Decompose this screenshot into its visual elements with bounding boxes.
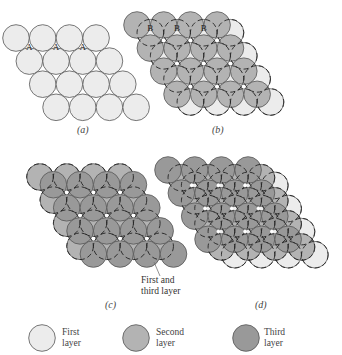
site-c-hole [175,62,179,66]
first-and-third-layer-annotation: First and third layer [141,275,180,297]
first-layer-sphere [123,94,150,121]
legend-third-layer-swatch [233,325,260,352]
site-c-hole [202,62,206,66]
annotation-leader-line [154,262,160,276]
first-layer-sphere [110,71,137,98]
site-a-marker: A [80,42,87,52]
first-layer-sphere [83,71,110,98]
legend-second-line2: layer [156,338,184,349]
first-layer-sphere [43,48,70,75]
site-c-hole [215,39,219,43]
annotation-line-1: First and [141,275,180,286]
aba-hole [145,237,149,241]
legend-first-layer-swatch [29,325,56,352]
legend-first-line2: layer [62,338,81,349]
aba-hole [118,191,122,195]
legend-first-layer-label: First layer [62,327,81,349]
first-layer-sphere [69,94,96,121]
panel-c-label: (c) [105,299,116,310]
site-b-marker: B [201,23,207,33]
aba-hole [92,191,96,195]
panel-b-two-layers: BBB [124,12,284,116]
abc-hole [190,184,194,188]
legend-third-layer-label: Third layer [264,327,285,349]
site-a-marker: A [26,42,33,52]
abc-hole [243,184,247,188]
site-c-hole [162,39,166,43]
first-layer-sphere [83,25,110,52]
abc-hole [217,230,221,234]
legend-third-line2: layer [264,338,285,349]
aba-hole [65,191,69,195]
panel-b-label: (b) [212,124,224,135]
abc-hole [243,230,247,234]
legend-first-line1: First [62,327,81,338]
third-layer-sphere [155,157,182,184]
abc-hole [217,184,221,188]
site-b-marker: B [174,23,180,33]
panel-a-first-layer: AAA [3,25,150,121]
first-layer-sphere [69,48,96,75]
second-layer-sphere [124,12,151,39]
site-c-hole [215,85,219,89]
aba-hole [78,214,82,218]
site-b-marker: B [147,23,153,33]
abc-hole [270,230,274,234]
aba-hole [105,214,109,218]
legend-second-layer-label: Second layer [156,327,184,349]
first-layer-sphere [29,71,56,98]
aba-hole [92,237,96,241]
legend-second-layer-swatch [123,325,150,352]
abc-hole [230,207,234,211]
site-a-marker: A [53,42,60,52]
second-layer-sphere [137,35,164,62]
legend-second-line1: Second [156,327,184,338]
first-layer-sphere [96,94,123,121]
first-layer-sphere [56,71,83,98]
close-packing-diagram: AAA BBB [0,0,342,355]
first-layer-sphere [16,48,43,75]
second-layer-sphere [150,58,177,85]
site-c-hole [189,39,193,43]
abc-hole [203,207,207,211]
aba-hole [118,237,122,241]
site-c-hole [189,85,193,89]
site-c-hole [242,85,246,89]
aba-hole [132,214,136,218]
panel-a-label: (a) [77,124,89,135]
site-c-hole [229,62,233,66]
annotation-line-2: third layer [141,286,180,297]
first-layer-sphere [43,94,70,121]
panel-d-label: (d) [255,299,267,310]
second-layer-sphere [164,81,191,108]
abc-hole [257,207,261,211]
legend-third-line1: Third [264,327,285,338]
first-layer-sphere [96,48,123,75]
